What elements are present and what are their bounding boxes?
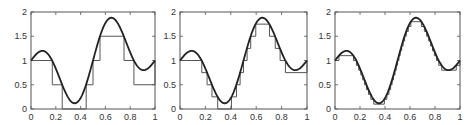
x-tick-label: 0 [332, 112, 337, 122]
panel-1: 00.20.40.60.8100.511.52 [14, 7, 157, 122]
x-tick-label: 0.4 [225, 112, 238, 122]
x-tick-label: 0.6 [404, 112, 417, 122]
y-tick-label: 0 [326, 104, 331, 114]
y-tick-label: 1.5 [318, 31, 331, 41]
x-tick-label: 0.2 [354, 112, 367, 122]
x-tick-label: 0.4 [379, 112, 392, 122]
y-tick-label: 0 [171, 104, 176, 114]
x-tick-label: 0.6 [250, 112, 263, 122]
x-tick-label: 0 [28, 112, 33, 122]
panel-3: 00.20.40.60.8100.511.52 [318, 7, 462, 122]
y-tick-label: 1 [171, 56, 176, 66]
y-tick-label: 1.5 [14, 31, 27, 41]
figure: 00.20.40.60.8100.511.52 00.20.40.60.8100… [0, 0, 475, 125]
x-tick-label: 0.6 [99, 112, 112, 122]
x-tick-label: 0.8 [275, 112, 288, 122]
x-tick-label: 0.4 [74, 112, 87, 122]
x-tick-label: 0.2 [50, 112, 63, 122]
y-tick-label: 0.5 [318, 80, 331, 90]
step-approximation [180, 24, 307, 109]
step-approximation [31, 36, 155, 109]
y-tick-label: 2 [326, 7, 331, 17]
y-tick-label: 2 [171, 7, 176, 17]
y-tick-label: 0 [22, 104, 27, 114]
y-tick-label: 1 [22, 56, 27, 66]
x-tick-label: 1 [457, 112, 462, 122]
x-tick-label: 0 [177, 112, 182, 122]
panel-2: 00.20.40.60.8100.511.52 [163, 7, 309, 122]
x-tick-label: 0.2 [199, 112, 212, 122]
y-tick-label: 2 [22, 7, 27, 17]
y-tick-label: 0.5 [163, 80, 176, 90]
x-tick-label: 1 [152, 112, 157, 122]
x-tick-label: 0.8 [124, 112, 137, 122]
y-tick-label: 1 [326, 56, 331, 66]
y-tick-label: 1.5 [163, 31, 176, 41]
x-tick-label: 0.8 [429, 112, 442, 122]
x-tick-label: 1 [304, 112, 309, 122]
y-tick-label: 0.5 [14, 80, 27, 90]
